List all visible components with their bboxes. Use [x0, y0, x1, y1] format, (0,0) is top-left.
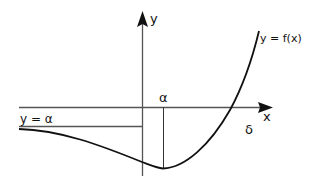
y-axis-label: y [150, 11, 158, 26]
curve-label: y = f(x) [260, 32, 302, 45]
asymptote-label: y = α [20, 112, 53, 126]
alpha-point-label: α [159, 90, 168, 105]
delta-point-label: δ [245, 122, 253, 137]
x-axis-label: x [263, 109, 271, 124]
function-graph: y x y = f(x) y = α α δ [0, 0, 318, 187]
curve-f-of-x [19, 31, 259, 169]
